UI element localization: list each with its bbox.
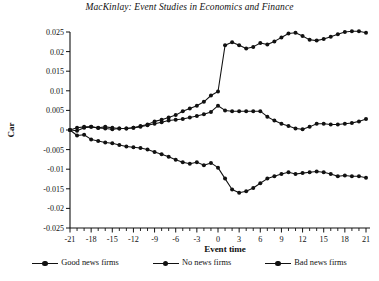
data-point — [357, 174, 361, 178]
data-point — [195, 104, 199, 108]
data-point — [216, 104, 220, 108]
data-point — [216, 166, 220, 170]
data-point — [146, 123, 150, 127]
data-point — [336, 174, 340, 178]
legend-label-bad-news: Bad news firms — [294, 259, 347, 267]
data-point — [350, 121, 354, 125]
data-point — [315, 122, 319, 126]
data-point — [82, 133, 86, 137]
y-tick-label: 0.01 — [50, 87, 64, 96]
legend-item-no-news[interactable]: No news firms — [153, 259, 231, 267]
data-point — [110, 141, 114, 145]
data-point — [265, 115, 269, 119]
data-point — [279, 172, 283, 176]
data-point — [160, 152, 164, 156]
x-tick-label: 18 — [341, 235, 349, 244]
y-tick-label: -0.02 — [47, 204, 64, 213]
y-tick-label: 0.02 — [50, 48, 64, 57]
data-point — [110, 126, 114, 130]
data-point — [96, 126, 100, 130]
data-point — [336, 123, 340, 127]
data-point — [343, 30, 347, 34]
data-point — [322, 122, 326, 126]
y-tick-label: 0 — [60, 126, 64, 135]
data-point — [209, 161, 213, 165]
data-point — [138, 146, 142, 150]
y-tick-label: 0.025 — [46, 28, 64, 37]
data-point — [167, 119, 171, 123]
x-tick-label: 9 — [279, 235, 283, 244]
data-point — [131, 145, 135, 149]
data-point — [174, 118, 178, 122]
data-point — [251, 186, 255, 190]
data-point — [75, 133, 79, 137]
series-line — [70, 130, 366, 193]
data-point — [96, 139, 100, 143]
data-point — [279, 122, 283, 126]
data-point — [124, 144, 128, 148]
legend-marker-good-news — [32, 259, 58, 267]
data-point — [258, 41, 262, 45]
data-point — [286, 32, 290, 36]
data-point — [294, 126, 298, 130]
data-point — [322, 170, 326, 174]
data-point — [343, 173, 347, 177]
series-layer — [68, 29, 368, 195]
x-tick-label: 21 — [362, 235, 370, 244]
y-tick-label: -0.025 — [43, 224, 64, 233]
data-point — [258, 181, 262, 185]
x-tick-label: 3 — [237, 235, 241, 244]
data-point — [82, 125, 86, 129]
data-point — [89, 137, 93, 141]
data-point — [117, 143, 121, 147]
data-point — [308, 38, 312, 42]
legend-item-bad-news[interactable]: Bad news firms — [265, 259, 347, 267]
data-point — [230, 188, 234, 192]
chart-page: MacKinlay: Event Studies in Economics an… — [0, 0, 379, 281]
chart-plot-area: -0.025-0.02-0.015-0.01-0.00500.0050.010.… — [0, 0, 379, 281]
data-point — [230, 40, 234, 44]
x-tick-label: -3 — [193, 235, 200, 244]
data-point — [357, 119, 361, 123]
data-point — [75, 126, 79, 130]
x-tick-label: -9 — [151, 235, 158, 244]
series-no-news-firms — [68, 104, 368, 132]
data-point — [174, 158, 178, 162]
data-point — [202, 163, 206, 167]
data-point — [68, 128, 72, 132]
data-point — [181, 117, 185, 121]
data-point — [89, 125, 93, 129]
legend-marker-no-news — [153, 259, 179, 267]
data-point — [286, 170, 290, 174]
legend-label-no-news: No news firms — [182, 259, 231, 267]
y-axis-title: Car — [6, 123, 16, 138]
data-point — [350, 174, 354, 178]
y-tick-label: 0.005 — [46, 106, 64, 115]
data-point — [167, 155, 171, 159]
series-good-news-firms — [68, 29, 368, 133]
legend-label-good-news: Good news firms — [61, 259, 119, 267]
data-point — [146, 148, 150, 152]
data-point — [237, 191, 241, 195]
y-tick-label: -0.005 — [43, 146, 64, 155]
data-point — [181, 160, 185, 164]
data-point — [265, 177, 269, 181]
data-point — [230, 109, 234, 113]
data-point — [244, 189, 248, 193]
data-point — [301, 34, 305, 38]
data-point — [181, 109, 185, 113]
data-point — [223, 108, 227, 112]
legend-marker-bad-news — [265, 259, 291, 267]
data-point — [329, 123, 333, 127]
x-tick-label: -12 — [128, 235, 139, 244]
data-point — [294, 172, 298, 176]
x-tick-label: 6 — [258, 235, 262, 244]
data-point — [174, 113, 178, 117]
data-point — [209, 110, 213, 114]
data-point — [272, 174, 276, 178]
legend-item-good-news[interactable]: Good news firms — [32, 259, 119, 267]
data-point — [202, 100, 206, 104]
x-tick-label: -21 — [65, 235, 76, 244]
data-point — [195, 114, 199, 118]
data-point — [364, 117, 368, 121]
